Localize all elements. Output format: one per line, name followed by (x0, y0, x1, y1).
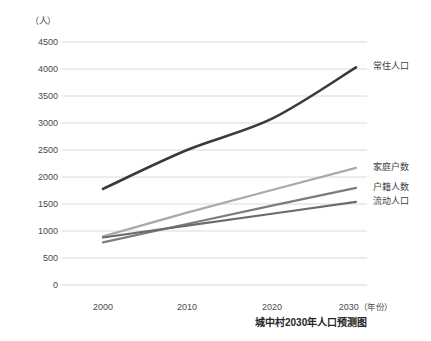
series-label-家庭户数: 家庭户数 (373, 163, 409, 172)
y-tick-0: 0 (18, 281, 58, 290)
series-label-流动人口: 流动人口 (373, 197, 409, 206)
x-tick-text: 2010 (177, 302, 197, 312)
series-line-流动人口 (103, 202, 356, 238)
series-label-常住人口: 常住人口 (373, 62, 409, 71)
y-tick-3500: 3500 (18, 92, 58, 101)
x-tick-2030: 2030（年份） (339, 303, 393, 312)
y-tick-1500: 1500 (18, 200, 58, 209)
series-line-常住人口 (103, 67, 356, 189)
y-tick-1000: 1000 (18, 227, 58, 236)
y-tick-4500: 4500 (18, 38, 58, 47)
y-tick-4000: 4000 (18, 65, 58, 74)
x-axis-unit-label: （年份） (359, 302, 393, 312)
chart-caption: 城中村2030年人口预测图 (255, 318, 367, 328)
x-tick-text: 2020 (262, 302, 282, 312)
y-tick-2000: 2000 (18, 173, 58, 182)
plot-area (0, 0, 431, 341)
series-line-家庭户数 (103, 168, 356, 237)
series-line-户籍人数 (103, 188, 356, 243)
x-tick-2010: 2010 (177, 303, 197, 312)
x-tick-2000: 2000 (93, 303, 113, 312)
x-tick-text: 2000 (93, 302, 113, 312)
population-forecast-chart: （人） 450040003500300025002000150010005000… (0, 0, 431, 341)
y-tick-2500: 2500 (18, 146, 58, 155)
x-tick-text: 2030 (339, 302, 359, 312)
series-label-户籍人数: 户籍人数 (373, 183, 409, 192)
x-tick-2020: 2020 (262, 303, 282, 312)
y-tick-3000: 3000 (18, 119, 58, 128)
y-tick-500: 500 (18, 254, 58, 263)
